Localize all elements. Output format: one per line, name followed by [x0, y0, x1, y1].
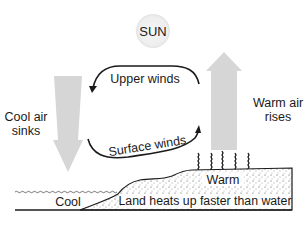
warm-air-rises-arrow: [206, 52, 242, 150]
cool-air-label-line2: sinks: [12, 124, 40, 138]
warm-air-label-line1: Warm air: [253, 96, 303, 110]
sea-breeze-diagram: SUN Cool air sinks Warm air rises Upper …: [0, 0, 306, 226]
surface-winds-label: Surface winds: [108, 133, 188, 159]
arrowhead-left-icon: [89, 86, 97, 93]
up-arrow-icon: [206, 52, 242, 150]
sun-label: SUN: [139, 24, 166, 39]
land-heats-label: Land heats up faster than water: [119, 194, 292, 208]
water-surface: [15, 191, 117, 193]
sun: SUN: [136, 14, 170, 48]
warm-air-label-line2: rises: [265, 110, 291, 124]
upper-winds-label: Upper winds: [110, 72, 179, 86]
warm-label: Warm: [207, 173, 240, 187]
cool-air-label-line1: Cool air: [4, 110, 47, 124]
heat-wave-icon: [222, 151, 223, 171]
down-arrow-icon: [53, 76, 83, 172]
cool-air-sinks-arrow: [53, 76, 83, 172]
arrowhead-up-icon: [195, 125, 201, 133]
cool-label: Cool: [55, 195, 81, 209]
